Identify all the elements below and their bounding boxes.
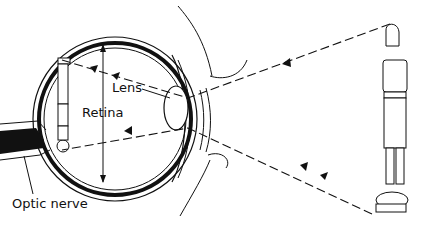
eye-diagram: Lens Retina Optic nerve: [0, 0, 433, 227]
label-optic-nerve: Optic nerve: [12, 196, 88, 211]
lens: [164, 86, 188, 130]
optic-nerve-pointer: [24, 156, 33, 194]
person-on-skateboard: [376, 24, 408, 212]
optic-nerve: [0, 121, 50, 160]
label-lens: Lens: [112, 80, 142, 95]
lens-pointer: [142, 89, 170, 98]
label-retina: Retina: [82, 105, 123, 120]
inverted-image: [57, 58, 70, 152]
